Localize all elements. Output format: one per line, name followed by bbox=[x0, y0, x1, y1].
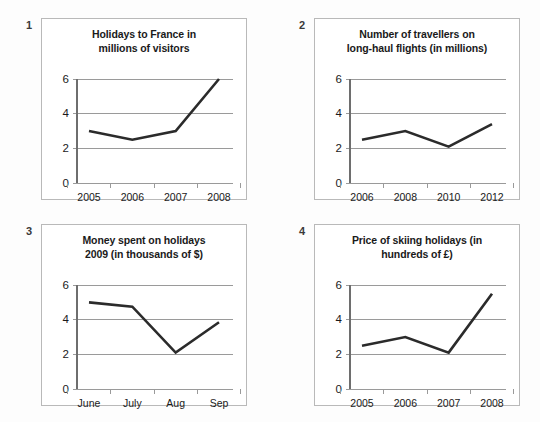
chart-frame-1: Holidays to France in millions of visito… bbox=[41, 18, 247, 200]
y-axis-tick-label: 2 bbox=[336, 348, 342, 360]
panel-index-4: 4 bbox=[299, 226, 305, 237]
x-axis-category-label: 2012 bbox=[480, 191, 504, 203]
y-axis-tick-label: 4 bbox=[336, 107, 343, 119]
chart-svg: 0246JuneJulyAugSep bbox=[42, 225, 246, 405]
y-axis-tick-label: 6 bbox=[336, 279, 342, 291]
y-axis-tick-label: 0 bbox=[63, 177, 69, 189]
x-axis-category-label: 2006 bbox=[350, 191, 374, 203]
data-series-line bbox=[362, 124, 492, 147]
x-axis-category-label: 2010 bbox=[437, 191, 461, 203]
data-series-line bbox=[89, 79, 219, 140]
y-axis-tick-label: 6 bbox=[63, 279, 69, 291]
x-axis-category-label: 2007 bbox=[164, 191, 188, 203]
x-axis-category-label: 2008 bbox=[207, 191, 231, 203]
chart-svg: 02462005200620072008 bbox=[315, 225, 519, 405]
x-axis-category-label: Sep bbox=[210, 397, 229, 409]
y-axis-tick-label: 6 bbox=[63, 73, 69, 85]
data-series-line bbox=[89, 302, 219, 352]
x-axis-category-label: June bbox=[78, 397, 101, 409]
chart-frame-4: Price of skiing holidays (in hundreds of… bbox=[314, 224, 520, 406]
y-axis-tick-label: 4 bbox=[63, 313, 70, 325]
chart-frame-3: Money spent on holidays 2009 (in thousan… bbox=[41, 224, 247, 406]
y-axis-tick-label: 0 bbox=[336, 177, 342, 189]
chart-plot-4: 02462005200620072008 bbox=[315, 225, 519, 405]
worksheet-page: 1 Holidays to France in millions of visi… bbox=[0, 0, 540, 422]
y-axis-tick-label: 6 bbox=[336, 73, 342, 85]
y-axis-tick-label: 0 bbox=[336, 383, 342, 395]
panel-index-1: 1 bbox=[26, 20, 32, 31]
chart-plot-3: 0246JuneJulyAugSep bbox=[42, 225, 246, 405]
x-axis-category-label: 2006 bbox=[394, 397, 418, 409]
chart-plot-2: 02462006200820102012 bbox=[315, 19, 519, 199]
panel-index-3: 3 bbox=[26, 226, 32, 237]
data-series-line bbox=[362, 294, 492, 353]
chart-frame-2: Number of travellers on long-haul flight… bbox=[314, 18, 520, 200]
y-axis-tick-label: 4 bbox=[63, 107, 70, 119]
y-axis-tick-label: 4 bbox=[336, 313, 343, 325]
y-axis-tick-label: 0 bbox=[63, 383, 69, 395]
x-axis-category-label: Aug bbox=[166, 397, 185, 409]
chart-svg: 02462005200620072008 bbox=[42, 19, 246, 199]
x-axis-category-label: 2008 bbox=[394, 191, 418, 203]
x-axis-category-label: 2006 bbox=[121, 191, 145, 203]
panel-index-2: 2 bbox=[299, 20, 305, 31]
x-axis-category-label: 2005 bbox=[350, 397, 374, 409]
x-axis-category-label: July bbox=[123, 397, 142, 409]
y-axis-tick-label: 2 bbox=[63, 348, 69, 360]
x-axis-category-label: 2008 bbox=[480, 397, 504, 409]
x-axis-category-label: 2007 bbox=[437, 397, 461, 409]
x-axis-category-label: 2005 bbox=[77, 191, 101, 203]
y-axis-tick-label: 2 bbox=[63, 142, 69, 154]
chart-svg: 02462006200820102012 bbox=[315, 19, 519, 199]
chart-plot-1: 02462005200620072008 bbox=[42, 19, 246, 199]
y-axis-tick-label: 2 bbox=[336, 142, 342, 154]
